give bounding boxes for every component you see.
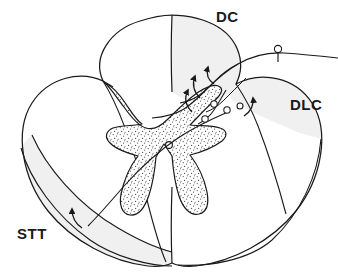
dorsal-horn-interneuron-1-icon [211, 101, 217, 107]
dorsal-horn-interneuron-4-icon [237, 103, 243, 109]
dorsal-horn-interneuron-2-icon [224, 107, 230, 113]
dorsal-median-sulcus [171, 15, 172, 92]
figure-canvas: DC DLC STT [0, 0, 338, 279]
label-spinothalamic-tract: STT [17, 225, 47, 242]
gray-matter-butterfly [104, 82, 226, 215]
dorsal-horn-interneuron-3-icon [202, 116, 208, 122]
spinal-cord-diagram [0, 0, 338, 279]
dorsal-root-ganglion-cell-icon [274, 45, 281, 52]
label-dorsal-column: DC [216, 8, 239, 25]
label-dorsolateral-column: DLC [290, 96, 322, 113]
gray-matter-group [104, 82, 226, 215]
